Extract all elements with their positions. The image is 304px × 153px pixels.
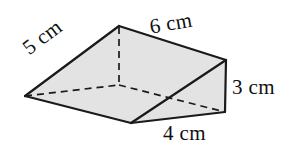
dimension-label-base-edge: 4 cm — [163, 123, 206, 144]
edge-height-3cm — [225, 60, 226, 112]
geometry-figure: 5 cm 6 cm 3 cm 4 cm — [0, 0, 304, 153]
dimension-label-height-edge: 3 cm — [232, 77, 275, 98]
